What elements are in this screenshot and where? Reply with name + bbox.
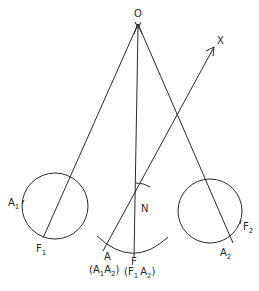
label-F-paren: (F1A2) — [124, 266, 155, 280]
label-N: N — [141, 203, 148, 214]
label-O: O — [134, 8, 142, 19]
line-O-F1 — [43, 24, 138, 238]
line-O-F — [134, 28, 138, 257]
right-circle — [178, 179, 242, 243]
label-A-paren: (A1A2) — [89, 264, 120, 278]
line-A-X — [103, 47, 214, 251]
left-circle — [22, 173, 88, 239]
label-A1: A1 — [8, 197, 19, 211]
label-A2: A2 — [220, 247, 231, 261]
label-A: A — [104, 251, 111, 262]
label-F1: F1 — [36, 243, 46, 257]
label-F2: F2 — [243, 221, 253, 235]
label-X: X — [217, 35, 224, 46]
line-O-A2 — [138, 24, 233, 243]
optics-diagram: O X N A1 F1 A2 F2 A F (A1A2) (F1A2) — [0, 0, 259, 291]
